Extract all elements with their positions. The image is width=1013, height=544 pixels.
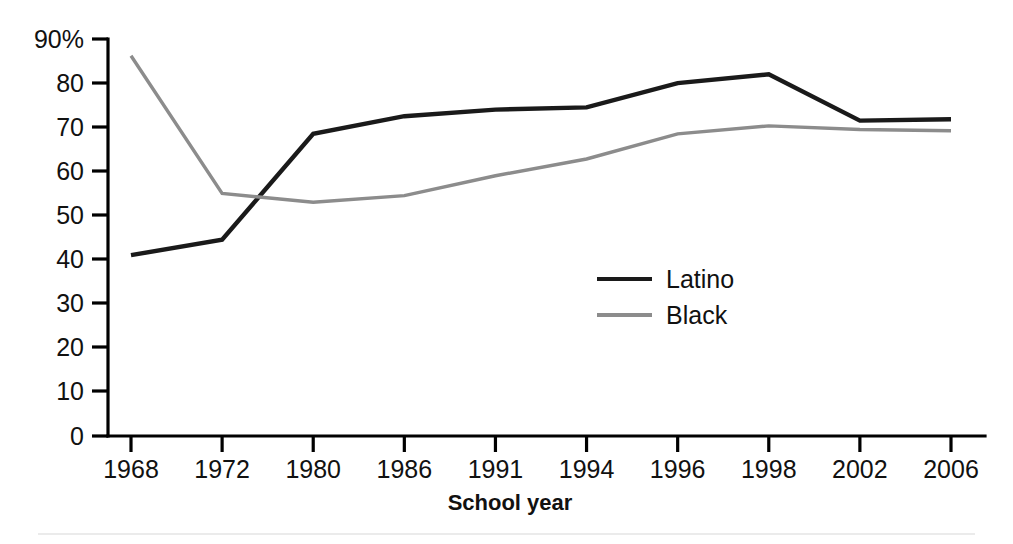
y-tick-label-0: 0 [70,422,84,450]
legend-label-latino: Latino [666,265,734,293]
x-tick-label-1991: 1991 [468,455,524,483]
y-tick-label-90: 90% [34,25,84,53]
x-tick-label-1994: 1994 [559,455,615,483]
chart-canvas: 90% 80 70 60 50 40 30 20 10 0 1968197219… [0,0,1013,544]
x-axis-title: School year [448,490,573,515]
y-tick-label-30: 30 [56,289,84,317]
y-tick-label-40: 40 [56,245,84,273]
y-tick-label-70: 70 [56,113,84,141]
legend-label-black: Black [666,301,728,329]
x-tick-label-1998: 1998 [741,455,797,483]
x-tick-label-2002: 2002 [832,455,888,483]
y-tick-label-50: 50 [56,201,84,229]
x-tick-label-1996: 1996 [650,455,706,483]
x-tick-label-1980: 1980 [285,455,341,483]
y-tick-label-60: 60 [56,157,84,185]
y-tick-label-20: 20 [56,333,84,361]
x-tick-label-1986: 1986 [377,455,433,483]
x-tick-label-1972: 1972 [194,455,250,483]
y-tick-label-80: 80 [56,69,84,97]
y-tick-label-10: 10 [56,377,84,405]
x-tick-label-1968: 1968 [103,455,159,483]
line-chart: 90% 80 70 60 50 40 30 20 10 0 1968197219… [0,0,1013,544]
x-tick-label-2006: 2006 [923,455,979,483]
